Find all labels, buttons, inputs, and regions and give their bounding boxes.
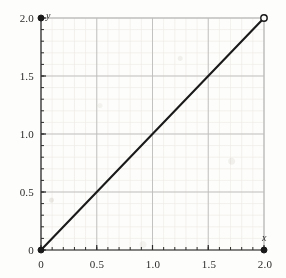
x-tick-label-0-5: 0.5 [83, 258, 111, 270]
y-tick-label-2-0: 2.0 [6, 12, 34, 24]
x-tick-label-2-0: 2.0 [251, 258, 279, 270]
y-axis-label: y [46, 10, 50, 21]
x-axis-label: x [262, 232, 266, 243]
y-tick-label-0: 0 [6, 244, 34, 256]
x-tick-label-1-0: 1.0 [139, 258, 167, 270]
line-chart-plot [0, 0, 286, 278]
chart-figure: 2.0 1.5 1.0 0.5 0 0 0.5 1.0 1.5 2.0 y x [0, 0, 286, 278]
y-tick-label-1-0: 1.0 [6, 128, 34, 140]
x-tick-label-0: 0 [27, 258, 55, 270]
x-tick-label-1-5: 1.5 [195, 258, 223, 270]
y-tick-label-0-5: 0.5 [6, 186, 34, 198]
y-tick-label-1-5: 1.5 [6, 70, 34, 82]
